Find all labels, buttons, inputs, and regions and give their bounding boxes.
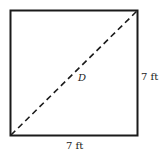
diagonal-label: D bbox=[77, 72, 86, 83]
square-diagram: D 7 ft 7 ft bbox=[0, 0, 165, 153]
diagonal-dashed-line bbox=[11, 11, 137, 135]
bottom-side-label: 7 ft bbox=[66, 140, 83, 151]
right-side-label: 7 ft bbox=[141, 71, 158, 82]
